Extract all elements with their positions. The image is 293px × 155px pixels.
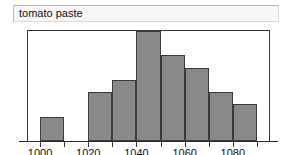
page-title: tomato paste (14, 8, 83, 19)
x-axis-tick (64, 142, 65, 147)
histogram-bar (233, 104, 257, 141)
title-bar: tomato paste (13, 5, 279, 22)
histogram-bar (161, 55, 185, 141)
x-axis-tick (161, 142, 162, 147)
x-axis-tick-label: 1020 (76, 148, 100, 155)
x-axis-tick-label: 1000 (28, 148, 52, 155)
x-axis-tick-label: 1040 (124, 148, 148, 155)
x-axis-tick (112, 142, 113, 147)
x-axis-line (19, 141, 278, 142)
x-axis-tick-label: 1080 (221, 148, 245, 155)
histogram-bar (40, 117, 64, 141)
x-axis-tick (257, 142, 258, 147)
histogram-chart: 10001020104010601080 (0, 24, 293, 155)
histogram-bar (209, 92, 233, 141)
histogram-bar (88, 92, 112, 141)
bar-series (28, 31, 269, 141)
histogram-bar (136, 31, 160, 141)
histogram-bar (112, 80, 136, 141)
x-axis-tick-label: 1060 (172, 148, 196, 155)
histogram-bar (185, 68, 209, 141)
x-axis-tick (209, 142, 210, 147)
